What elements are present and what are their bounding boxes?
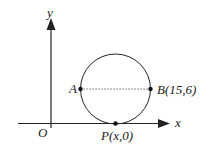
point-a <box>78 87 82 91</box>
coordinate-diagram: y x O A B(15,6) P(x,0) <box>0 0 206 150</box>
point-p-label: P(x,0) <box>100 128 133 143</box>
origin-label: O <box>38 125 48 140</box>
point-b <box>148 87 152 91</box>
point-b-label: B(15,6) <box>157 82 196 97</box>
point-p <box>113 121 117 125</box>
diagram-canvas: y x O A B(15,6) P(x,0) <box>0 0 206 150</box>
y-axis-label: y <box>45 5 53 20</box>
x-axis-label: x <box>174 115 181 130</box>
point-a-label: A <box>68 81 77 96</box>
circle <box>81 54 151 124</box>
x-axis-arrow-icon <box>158 119 170 128</box>
